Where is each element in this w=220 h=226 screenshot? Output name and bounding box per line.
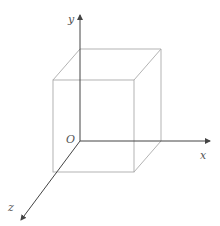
coordinate-diagram: y x z O [0,0,220,226]
z-axis [21,141,80,220]
y-axis-label: y [67,13,75,26]
z-axis-label: z [7,201,14,214]
cube [53,49,161,172]
origin-label: O [66,133,75,146]
axes [21,15,210,220]
x-axis-label: x [200,149,207,162]
